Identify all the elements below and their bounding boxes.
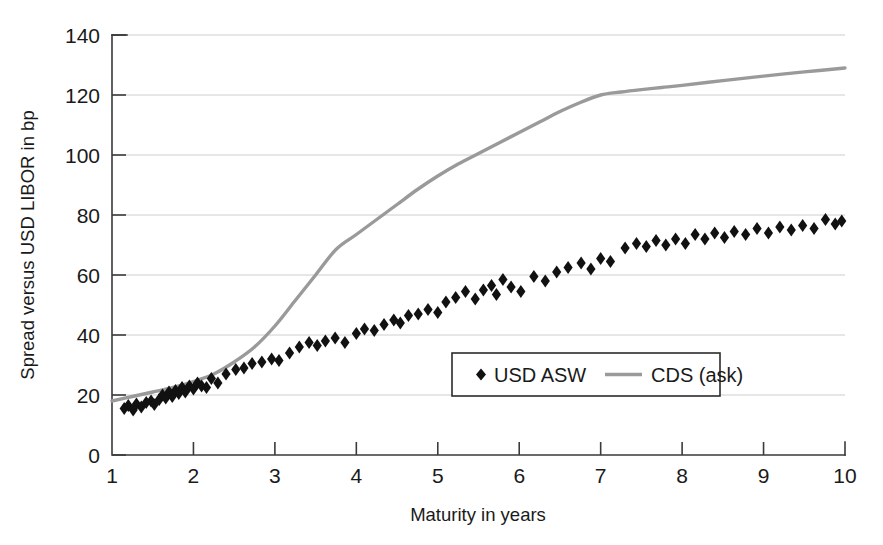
x-axis-title: Maturity in years bbox=[410, 504, 546, 525]
y-tick-label-100: 100 bbox=[65, 144, 100, 167]
chart-figure: 020406080100120140 12345678910 USD ASW C… bbox=[0, 0, 883, 545]
x-tick-label-1: 1 bbox=[106, 464, 118, 487]
x-tick-label-2: 2 bbox=[188, 464, 200, 487]
y-tick-label-80: 80 bbox=[77, 204, 100, 227]
chart-svg: 020406080100120140 12345678910 USD ASW C… bbox=[0, 0, 883, 545]
x-tick-label-5: 5 bbox=[432, 464, 444, 487]
y-tick-label-40: 40 bbox=[77, 324, 100, 347]
y-tick-label-0: 0 bbox=[88, 444, 100, 467]
y-axis-title: Spread versus USD LIBOR in bp bbox=[17, 110, 38, 379]
y-tick-label-60: 60 bbox=[77, 264, 100, 287]
chart-legend: USD ASW CDS (ask) bbox=[452, 353, 743, 396]
x-tick-label-4: 4 bbox=[350, 464, 362, 487]
x-tick-label-6: 6 bbox=[513, 464, 525, 487]
y-tick-label-120: 120 bbox=[65, 84, 100, 107]
legend-label-usd-asw: USD ASW bbox=[494, 364, 586, 386]
x-tick-label-8: 8 bbox=[676, 464, 688, 487]
x-tick-label-9: 9 bbox=[758, 464, 770, 487]
x-tick-label-10: 10 bbox=[833, 464, 856, 487]
x-tick-label-3: 3 bbox=[269, 464, 281, 487]
legend-label-cds-ask: CDS (ask) bbox=[651, 364, 743, 386]
y-tick-label-140: 140 bbox=[65, 24, 100, 47]
y-tick-label-20: 20 bbox=[77, 384, 100, 407]
x-tick-label-7: 7 bbox=[595, 464, 607, 487]
